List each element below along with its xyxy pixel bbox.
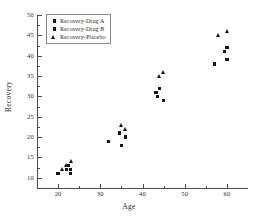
y-tick	[38, 178, 42, 179]
y-tick	[38, 76, 42, 77]
legend-item[interactable]: Recovery-Drug B	[50, 25, 106, 33]
x-tick-minor	[79, 186, 80, 188]
square-marker-icon	[118, 131, 121, 134]
y-tick-label: 30	[12, 92, 34, 99]
square-marker-icon	[162, 99, 165, 102]
x-tick	[143, 184, 144, 188]
y-tick-label: 45	[12, 31, 34, 38]
y-tick-minor	[38, 168, 40, 169]
square-marker-icon	[225, 58, 228, 61]
x-tick	[227, 184, 228, 188]
y-tick-label: 10	[12, 174, 34, 181]
x-tick	[100, 184, 101, 188]
y-tick-minor	[38, 46, 40, 47]
y-tick	[38, 56, 42, 57]
y-tick-label: 20	[12, 133, 34, 140]
triangle-marker-icon	[64, 163, 68, 167]
y-tick-minor	[38, 107, 40, 108]
square-marker-icon	[56, 172, 59, 175]
triangle-marker-icon	[69, 159, 73, 163]
square-marker-icon	[223, 50, 226, 53]
x-tick-label: 30	[88, 190, 112, 197]
legend-item[interactable]: Recovery-Drug A	[50, 17, 106, 25]
square-marker-icon	[65, 168, 68, 171]
triangle-marker-icon	[157, 74, 161, 78]
x-tick-label: 50	[173, 190, 197, 197]
y-tick-minor	[38, 147, 40, 148]
square-marker-icon	[53, 19, 56, 22]
y-tick	[38, 96, 42, 97]
y-tick-label: 35	[12, 72, 34, 79]
x-tick-label: 40	[131, 190, 155, 197]
triangle-marker-icon	[225, 29, 229, 33]
square-marker-icon	[120, 144, 123, 147]
square-marker-icon	[107, 140, 110, 143]
y-tick-label: 40	[12, 52, 34, 59]
y-tick-minor	[38, 127, 40, 128]
x-tick-minor	[121, 186, 122, 188]
square-marker-icon	[69, 168, 72, 171]
triangle-marker-icon	[216, 33, 220, 37]
scatter-plot-figure: 101520253035404550 2030405060 Recovery A…	[0, 0, 258, 223]
square-marker-icon	[158, 87, 161, 90]
y-tick	[38, 117, 42, 118]
y-tick	[38, 15, 42, 16]
triangle-marker-icon	[123, 127, 127, 131]
y-tick-minor	[38, 25, 40, 26]
x-tick-label: 60	[215, 190, 239, 197]
x-tick-label: 20	[46, 190, 70, 197]
legend-label: Recovery-Drug A	[60, 18, 104, 24]
x-tick	[58, 184, 59, 188]
x-tick-minor	[206, 186, 207, 188]
y-tick	[38, 137, 42, 138]
y-tick-minor	[38, 66, 40, 67]
legend-item[interactable]: Recovery-Placebo	[50, 33, 106, 41]
legend: Recovery-Drug ARecovery-Drug BRecovery-P…	[46, 14, 111, 44]
x-axis-title: Age	[0, 202, 258, 211]
x-tick-minor	[164, 186, 165, 188]
triangle-marker-icon	[161, 70, 165, 74]
legend-label: Recovery-Drug B	[60, 26, 104, 32]
y-tick	[38, 35, 42, 36]
y-axis-line	[37, 15, 38, 188]
square-marker-icon	[69, 172, 72, 175]
square-marker-icon	[213, 62, 216, 65]
triangle-marker-icon	[51, 35, 55, 39]
y-tick-label: 25	[12, 113, 34, 120]
y-tick	[38, 157, 42, 158]
legend-label: Recovery-Placebo	[60, 34, 106, 40]
legend-marker	[50, 33, 60, 41]
legend-marker	[50, 17, 60, 25]
y-tick-minor	[38, 86, 40, 87]
x-tick	[185, 184, 186, 188]
y-tick-label: 50	[12, 11, 34, 18]
square-marker-icon	[225, 46, 228, 49]
y-axis-title: Recovery	[4, 67, 13, 127]
square-marker-icon	[124, 135, 127, 138]
triangle-marker-icon	[60, 167, 64, 171]
x-axis-line	[37, 188, 248, 189]
square-marker-icon	[53, 27, 56, 30]
legend-marker	[50, 25, 60, 33]
square-marker-icon	[156, 95, 159, 98]
y-tick-label: 15	[12, 153, 34, 160]
square-marker-icon	[154, 91, 157, 94]
